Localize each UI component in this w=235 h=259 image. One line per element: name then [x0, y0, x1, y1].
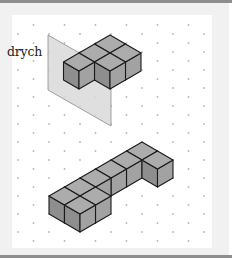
grid-dot [126, 240, 128, 242]
grid-dot [188, 60, 190, 62]
grid-dot [188, 42, 190, 44]
grid-dot [188, 204, 190, 206]
grid-dot [157, 78, 159, 80]
grid-dot [141, 123, 143, 125]
grid-dot [95, 240, 97, 242]
grid-dot [17, 213, 19, 215]
grid-dot [157, 204, 159, 206]
grid-dot [203, 213, 205, 215]
grid-dot [188, 114, 190, 116]
grid-dot [64, 132, 66, 134]
grid-dot [48, 33, 50, 35]
grid-dot [64, 150, 66, 152]
grid-dot [33, 204, 35, 206]
grid-dot [33, 114, 35, 116]
grid-dot [188, 168, 190, 170]
grid-dot [126, 204, 128, 206]
grid-dot [157, 114, 159, 116]
grid-dot [33, 240, 35, 242]
grid-dot [126, 114, 128, 116]
grid-dot [64, 240, 66, 242]
grid-dot [33, 222, 35, 224]
grid-dot [17, 177, 19, 179]
grid-dot [33, 186, 35, 188]
grid-dot [17, 69, 19, 71]
grid-dot [48, 141, 50, 143]
grid-dot [17, 123, 19, 125]
grid-dot [188, 222, 190, 224]
grid-dot [203, 87, 205, 89]
grid-dot [64, 114, 66, 116]
grid-dot [126, 96, 128, 98]
grid-dot [17, 105, 19, 107]
grid-dot [203, 195, 205, 197]
grid-dot [17, 195, 19, 197]
grid-dot [79, 123, 81, 125]
grid-dot [157, 222, 159, 224]
grid-dot [110, 231, 112, 233]
grid-dot [203, 231, 205, 233]
grid-dot [188, 132, 190, 134]
grid-dot [48, 231, 50, 233]
grid-dot [17, 231, 19, 233]
grid-dot [172, 123, 174, 125]
grid-dot [95, 150, 97, 152]
grid-dot [188, 150, 190, 152]
grid-dot [33, 150, 35, 152]
isometric-diagram [0, 0, 235, 259]
grid-dot [141, 195, 143, 197]
grid-dot [33, 24, 35, 26]
grid-dot [79, 33, 81, 35]
grid-dot [48, 159, 50, 161]
grid-dot [141, 105, 143, 107]
grid-dot [64, 168, 66, 170]
grid-dot [203, 141, 205, 143]
grid-dot [141, 231, 143, 233]
grid-dot [141, 33, 143, 35]
grid-dot [64, 24, 66, 26]
grid-dot [17, 33, 19, 35]
grid-dot [172, 213, 174, 215]
grid-dot [157, 132, 159, 134]
grid-dot [172, 231, 174, 233]
bottom-border [0, 255, 232, 258]
grid-dot [188, 24, 190, 26]
grid-dot [33, 168, 35, 170]
grid-dot [203, 177, 205, 179]
grid-dot [17, 159, 19, 161]
grid-dot [126, 24, 128, 26]
grid-dot [188, 78, 190, 80]
grid-dot [33, 96, 35, 98]
grid-dot [157, 240, 159, 242]
top-cube-shape [64, 35, 142, 89]
grid-dot [203, 69, 205, 71]
grid-dot [157, 24, 159, 26]
grid-dot [203, 123, 205, 125]
grid-dot [110, 141, 112, 143]
grid-dot [48, 177, 50, 179]
grid-dot [95, 24, 97, 26]
grid-dot [188, 186, 190, 188]
grid-dot [172, 87, 174, 89]
grid-dot [157, 42, 159, 44]
grid-dot [188, 240, 190, 242]
grid-dot [203, 159, 205, 161]
grid-dot [172, 69, 174, 71]
grid-dot [203, 33, 205, 35]
grid-dot [126, 132, 128, 134]
grid-dot [188, 96, 190, 98]
grid-dot [203, 51, 205, 53]
mirror-label: drych [7, 44, 42, 59]
grid-dot [79, 141, 81, 143]
grid-dot [172, 195, 174, 197]
grid-dot [95, 132, 97, 134]
bottom-cube-shape [49, 142, 173, 232]
grid-dot [203, 105, 205, 107]
grid-dot [33, 132, 35, 134]
grid-dot [172, 51, 174, 53]
grid-dot [141, 213, 143, 215]
grid-dot [157, 60, 159, 62]
grid-dot [33, 78, 35, 80]
grid-dot [17, 87, 19, 89]
grid-dot [126, 222, 128, 224]
